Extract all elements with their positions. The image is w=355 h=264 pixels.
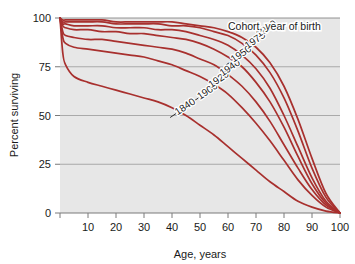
y-tick-label-0: 0: [45, 207, 51, 219]
x-tick-label-30: 30: [138, 221, 150, 233]
x-tick-label-90: 90: [306, 221, 318, 233]
y-axis-title: Percent surviving: [8, 73, 20, 157]
x-tick-label-40: 40: [166, 221, 178, 233]
x-tick-label-50: 50: [194, 221, 206, 233]
survival-curve-chart: 1840184019001900192019201940194019501950…: [0, 0, 355, 264]
y-tick-label-100: 100: [33, 12, 51, 24]
x-axis-title: Age, years: [174, 248, 227, 260]
chart-svg: 1840184019001900192019201940194019501950…: [0, 0, 355, 264]
x-tick-label-70: 70: [250, 221, 262, 233]
x-tick-label-60: 60: [222, 221, 234, 233]
x-tick-label-100: 100: [331, 221, 349, 233]
y-tick-label-50: 50: [39, 110, 51, 122]
x-tick-label-20: 20: [110, 221, 122, 233]
y-tick-label-25: 25: [39, 158, 51, 170]
y-tick-label-75: 75: [39, 61, 51, 73]
x-tick-label-10: 10: [82, 221, 94, 233]
x-tick-label-80: 80: [278, 221, 290, 233]
legend-title: Cohort, year of birth: [228, 20, 321, 32]
